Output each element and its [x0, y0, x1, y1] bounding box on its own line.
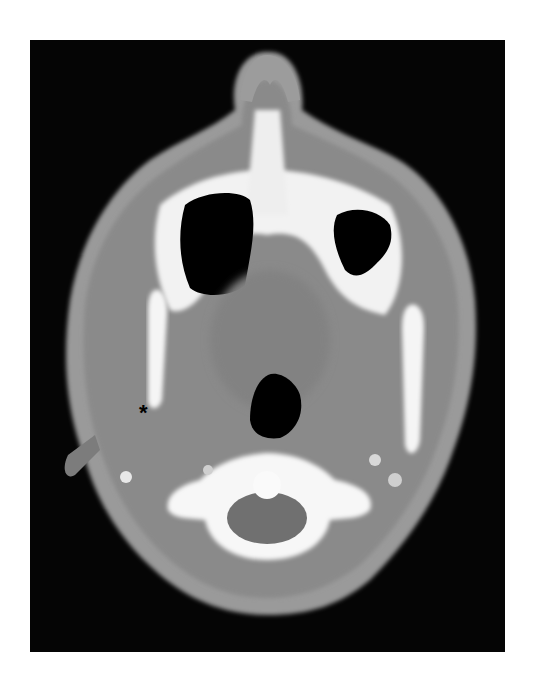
vessel-right [120, 471, 132, 483]
ct-scan-image [30, 40, 505, 652]
vessel-left [369, 454, 381, 466]
vessel-right-2 [203, 465, 213, 475]
annotation-asterisk: * [139, 402, 148, 424]
ct-scan-graphic [30, 40, 505, 652]
dens [253, 471, 281, 499]
spinal-canal [227, 492, 307, 544]
vessel-left-2 [388, 473, 402, 487]
